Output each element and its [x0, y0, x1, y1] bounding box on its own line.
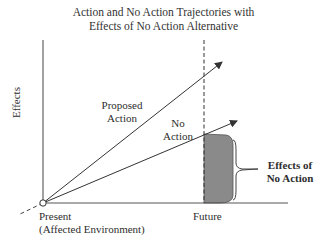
origin-marker	[40, 200, 46, 206]
proposed-action-label: Proposed Action	[92, 99, 152, 125]
effects-of-no-action-callout: Effects of No Action	[258, 159, 322, 185]
brace-icon	[233, 140, 258, 200]
present-label: Present (Affected Environment)	[39, 210, 145, 236]
no-action-effects-region	[204, 134, 233, 203]
future-label: Future	[193, 210, 222, 223]
no-action-label: No Action	[155, 117, 201, 143]
y-axis-label: Effects	[10, 87, 22, 118]
